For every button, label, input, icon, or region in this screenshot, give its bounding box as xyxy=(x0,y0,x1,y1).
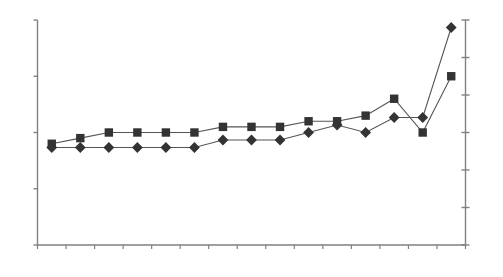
diamond-marker xyxy=(303,127,314,138)
square-marker xyxy=(190,128,198,136)
diamond-marker xyxy=(246,135,257,146)
dual-axis-line-chart xyxy=(0,0,503,277)
square-marker xyxy=(304,117,312,125)
diamond-marker xyxy=(161,142,172,153)
diamond-marker xyxy=(103,142,114,153)
square-marker xyxy=(390,95,398,103)
diamond-marker xyxy=(75,142,86,153)
square-marker xyxy=(76,134,84,142)
square-marker xyxy=(447,72,455,80)
diamond-marker xyxy=(218,135,229,146)
square-marker xyxy=(133,128,141,136)
square-marker xyxy=(276,123,284,131)
diamond-marker xyxy=(446,22,457,33)
square-marker xyxy=(247,123,255,131)
square-marker xyxy=(361,111,369,119)
square-marker xyxy=(219,123,227,131)
chart-canvas xyxy=(0,0,503,277)
diamond-marker xyxy=(275,135,286,146)
diamond-marker xyxy=(389,112,400,123)
diamond-marker xyxy=(189,142,200,153)
diamond-marker xyxy=(417,112,428,123)
diamond-marker xyxy=(360,127,371,138)
diamond-marker xyxy=(132,142,143,153)
square-marker xyxy=(105,128,113,136)
square-marker xyxy=(162,128,170,136)
square-marker xyxy=(419,128,427,136)
